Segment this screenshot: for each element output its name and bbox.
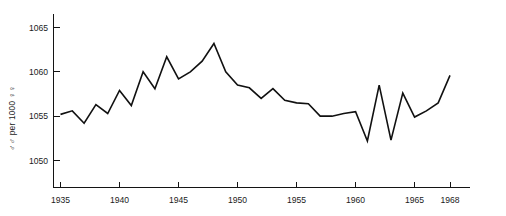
line-chart-canvas: ♂♂ per 1000 ♀♀ 1065 1060 1055 1050	[0, 0, 506, 216]
data-series-line	[61, 43, 451, 141]
y-tick-label: 1050	[29, 156, 48, 166]
x-tick-label: 1935	[51, 195, 70, 205]
x-tick-label: 1950	[228, 195, 247, 205]
y-tick-label: 1065	[29, 23, 48, 33]
y-tick-label: 1055	[29, 111, 48, 121]
y-tick-labels: 1065 1060 1055 1050	[29, 23, 48, 166]
x-tick-label: 1960	[346, 195, 365, 205]
x-tick-label: 1968	[440, 195, 459, 205]
x-tick-label: 1955	[287, 195, 306, 205]
x-tick-label: 1945	[169, 195, 188, 205]
y-tick-label: 1060	[29, 67, 48, 77]
x-tick-marks	[61, 182, 451, 188]
x-tick-labels: 1935 1940 1945 1950 1955 1960 1965 1968	[51, 195, 460, 205]
x-tick-label: 1940	[110, 195, 129, 205]
y-axis-label: ♂♂ per 1000 ♀♀	[7, 85, 17, 151]
y-tick-marks	[54, 28, 60, 161]
x-tick-label: 1965	[405, 195, 424, 205]
chart-figure: ♂♂ per 1000 ♀♀ 1065 1060 1055 1050	[0, 0, 506, 216]
